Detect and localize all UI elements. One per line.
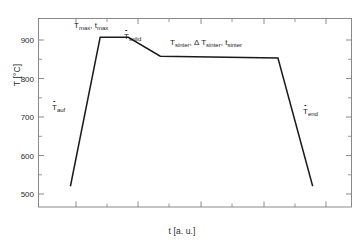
annotation-sinter-parameters: Tsinter, Δ Tsinter, tsinter <box>170 39 242 47</box>
y-axis-major-ticks <box>39 40 352 194</box>
subscript-sinter-2: sinter <box>206 42 221 48</box>
annotation-peak-temperature: Tmax, tmax <box>74 22 108 30</box>
subscript-sinter-3: sinter <box>227 42 242 48</box>
temperature-profile-curve <box>70 37 312 186</box>
subscript-sinter-1: sinter <box>175 42 190 48</box>
subscript-max-t: max <box>97 25 108 31</box>
subscript-solid: solid <box>129 36 141 42</box>
y-tick-label-500: 500 <box>8 190 34 199</box>
x-axis-title: t [a. u.] <box>0 226 364 236</box>
y-tick-label-600: 600 <box>8 152 34 161</box>
y-axis-title: T [°C] <box>12 30 22 120</box>
subscript-max-T: max <box>79 25 90 31</box>
sintering-temperature-profile-chart <box>0 0 364 246</box>
annotation-solidus-cooling-rate: Tsolid <box>124 33 141 41</box>
subscript-auf: auf <box>57 107 65 113</box>
subscript-end: end <box>308 111 318 117</box>
annotation-end-cooling-rate: Tend <box>303 108 318 116</box>
annotation-heating-rate: Tauf <box>52 104 65 112</box>
